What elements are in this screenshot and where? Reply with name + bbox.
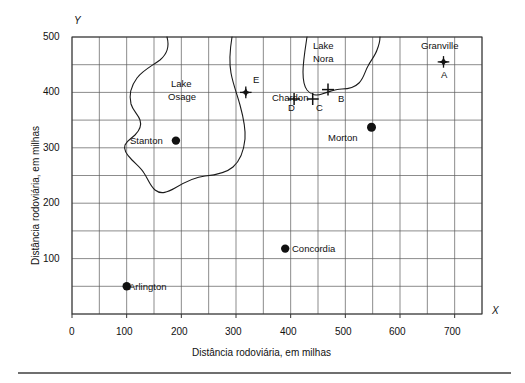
site-marker-a-granville [438, 56, 450, 68]
site-label-d: D [288, 103, 295, 113]
town-label-stanton: Stanton [130, 136, 163, 146]
lake-osage-outline [124, 37, 245, 193]
y-tick-label-200: 200 [43, 198, 60, 208]
y-tick-label-500: 500 [43, 32, 60, 42]
y-axis-title: Distância rodoviária, em milhas [30, 126, 41, 265]
y-tick-label-300: 300 [43, 143, 60, 153]
lake-osage-label-line1: Lake [171, 79, 192, 89]
x-tick-label-200: 200 [171, 327, 188, 337]
x-tick-label-400: 400 [280, 327, 297, 337]
y-tick-label-400: 400 [43, 87, 60, 97]
site-marker-e-chardon [240, 87, 252, 99]
town-label-granville: Granville [421, 41, 459, 51]
lake-nora-label-line2: Nora [313, 54, 334, 64]
figure-chart: Y X 500 400 300 200 100 0 100 200 300 40… [0, 0, 525, 383]
x-tick-label-300: 300 [225, 327, 242, 337]
x-axis-letter: X [492, 306, 499, 316]
lake-osage-label-line2: Osage [168, 92, 196, 102]
town-marker-stanton [172, 136, 180, 144]
site-label-b: B [338, 94, 344, 104]
town-label-arlington: Arlington [129, 282, 167, 292]
town-label-morton: Morton [328, 133, 358, 143]
bottom-divider [18, 372, 511, 374]
site-label-e: E [253, 75, 259, 85]
x-axis-title: Distância rodoviária, em milhas [192, 348, 331, 358]
town-marker-morton [367, 123, 376, 132]
axis-ticks [72, 314, 455, 318]
x-tick-label-0: 0 [69, 327, 75, 337]
x-tick-label-700: 700 [444, 327, 461, 337]
x-tick-label-500: 500 [335, 327, 352, 337]
x-tick-label-100: 100 [116, 327, 133, 337]
site-label-a: A [441, 70, 447, 80]
y-tick-label-100: 100 [43, 254, 60, 264]
town-marker-concordia [281, 244, 289, 252]
site-label-c: C [316, 103, 323, 113]
grid-lines [72, 37, 482, 314]
x-tick-label-600: 600 [389, 327, 406, 337]
town-label-concordia: Concordia [292, 244, 335, 254]
lake-nora-label-line1: Lake [313, 41, 334, 51]
y-axis-letter: Y [74, 16, 81, 26]
